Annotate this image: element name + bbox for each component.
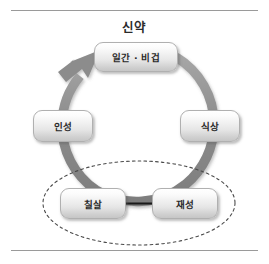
node-label: 인성 [54,119,72,133]
node-chilsal[interactable]: 칠살 [60,188,126,219]
node-label: 식상 [201,119,219,133]
node-siksang[interactable]: 식상 [180,110,240,142]
node-label: 일간 · 비겁 [112,50,160,64]
figure-canvas: 신약 일간 · 비겁 식상 [0,0,269,264]
node-inseong[interactable]: 인성 [33,110,93,142]
node-label: 칠살 [84,197,102,211]
node-label: 재성 [176,197,194,211]
node-ilgan-bigeop[interactable]: 일간 · 비겁 [94,42,178,72]
node-jaeseong[interactable]: 재성 [152,188,218,219]
